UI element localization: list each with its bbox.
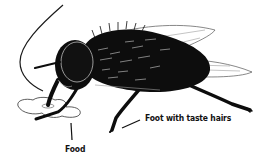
fly-head: [35, 40, 95, 105]
fly-illustration: [0, 0, 268, 165]
food-leader-line: [71, 123, 72, 140]
compound-eye: [61, 42, 93, 82]
fly-diagram: Foot with taste hairs Food: [0, 0, 268, 165]
long-leader-line: [20, 5, 63, 91]
foot-leader-line: [122, 120, 140, 128]
foot-with-taste-hairs-label: Foot with taste hairs: [145, 113, 231, 123]
food-label: Food: [65, 144, 85, 154]
